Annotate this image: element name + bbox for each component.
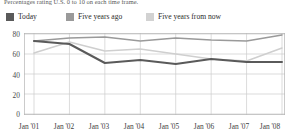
chart-subtitle: Percentages rating U.S. 0 to 10 on each … <box>4 0 138 5</box>
plot-area <box>24 33 285 115</box>
x-axis-tick-7: Jan '08 <box>249 122 291 131</box>
legend-label-five-years-from-now: Five years from now <box>158 12 221 21</box>
legend-swatch-five-years-from-now <box>146 13 154 21</box>
legend-label-five-years-ago: Five years ago <box>78 12 122 21</box>
legend-swatch-today <box>6 13 14 21</box>
y-axis-tick-20: 20 <box>2 91 20 100</box>
legend-label-today: Today <box>18 12 37 21</box>
legend-item-five-years-ago: Five years ago <box>66 12 122 21</box>
y-axis-tick-60: 60 <box>2 50 20 59</box>
legend-swatch-five-years-ago <box>66 13 74 21</box>
series-line-five-years-ago <box>34 35 282 41</box>
chart-figure: Percentages rating U.S. 0 to 10 on each … <box>0 0 291 139</box>
y-axis-tick-40: 40 <box>2 71 20 80</box>
legend-item-today: Today <box>6 12 37 21</box>
y-axis-tick-0: 0 <box>2 110 20 119</box>
y-axis-tick-80: 80 <box>2 30 20 39</box>
legend-item-five-years-from-now: Five years from now <box>146 12 221 21</box>
